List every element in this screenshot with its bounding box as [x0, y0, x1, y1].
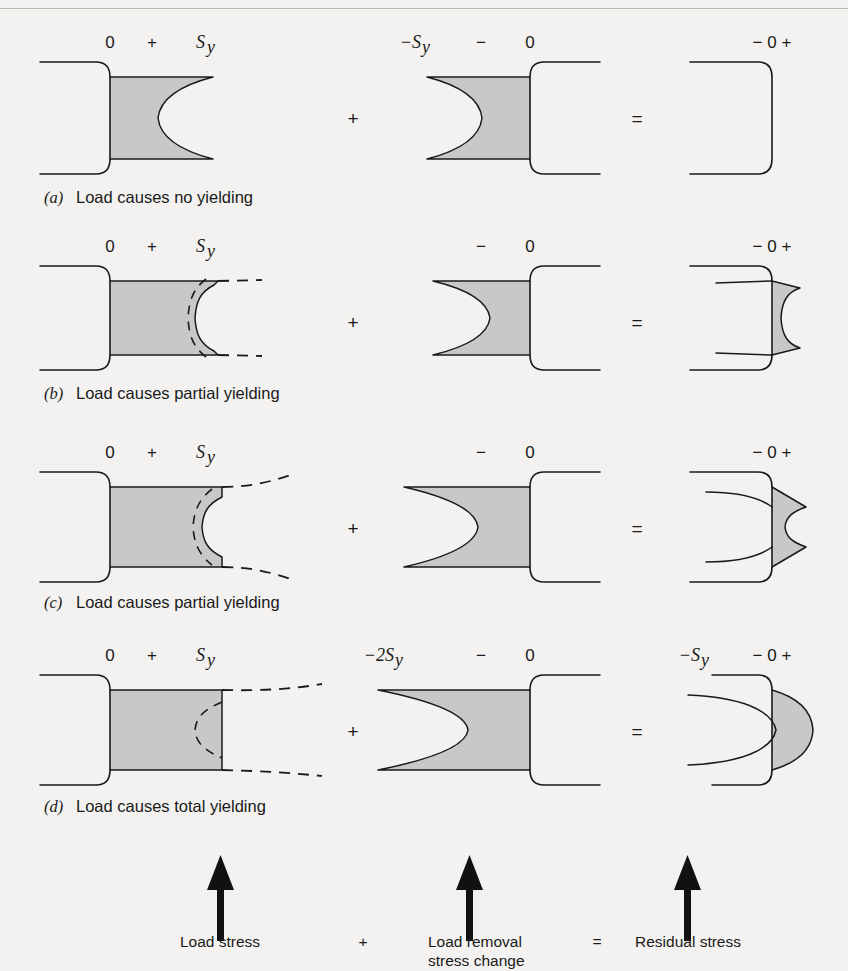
row-c-load-stress: 0 + S y — [40, 442, 296, 582]
figure-canvas: 0 + S y + −S y − 0 = − 0 + (a) Load caus… — [0, 0, 848, 971]
operator-plus-b: + — [347, 312, 358, 333]
legend-load-removal-line2: stress change — [428, 952, 525, 969]
stress-fill — [110, 690, 222, 770]
operator-equals-a: = — [631, 108, 642, 129]
label-neg-2sy: −2S — [364, 645, 394, 665]
label-sy: S — [196, 32, 205, 52]
legend-plus: + — [358, 933, 367, 950]
label-sy: S — [196, 442, 205, 462]
section-profile — [530, 472, 600, 582]
label-minus-zero-plus: − 0 + — [753, 237, 792, 256]
section-profile — [530, 266, 600, 370]
operator-equals-c: = — [631, 518, 642, 539]
residual-neg-top — [706, 492, 772, 507]
label-sy: S — [196, 236, 205, 256]
label-minus-zero-plus: − 0 + — [753, 33, 792, 52]
label-zero: 0 — [105, 237, 114, 256]
label-minus: − — [476, 443, 486, 462]
row-d: 0 + S y + −2S y − 0 = −S y − 0 + (d) — [40, 645, 813, 816]
residual-fill — [772, 690, 813, 770]
operator-equals-b: = — [631, 312, 642, 333]
caption-marker-b: (b) — [44, 384, 63, 403]
arrow-residual-stress-icon — [674, 855, 701, 941]
label-plus: + — [147, 237, 157, 256]
stress-fill — [404, 487, 530, 567]
row-a-load-stress: 0 + S y — [40, 32, 215, 174]
stress-fill — [433, 281, 530, 355]
label-zero: 0 — [105, 646, 114, 665]
section-profile — [530, 675, 600, 785]
legend-equals: = — [592, 933, 601, 950]
row-d-load-stress: 0 + S y — [40, 645, 322, 785]
residual-fill — [772, 281, 800, 355]
section-profile — [690, 62, 772, 174]
label-plus: + — [147, 646, 157, 665]
stress-fill — [110, 487, 222, 567]
label-zero: 0 — [105, 33, 114, 52]
section-profile — [40, 472, 110, 582]
label-minus-zero-plus: − 0 + — [753, 443, 792, 462]
caption-marker-c: (c) — [44, 593, 62, 612]
caption-text-a: Load causes no yielding — [76, 188, 253, 206]
row-a-residual-stress: − 0 + — [690, 33, 791, 174]
label-minus: − — [476, 237, 486, 256]
bottom-legend: Load stress + Load removal stress change… — [180, 855, 741, 969]
label-minus: − — [476, 33, 486, 52]
label-neg-2sy-subscript: y — [393, 650, 403, 670]
operator-plus-a: + — [347, 108, 358, 129]
label-minus: − — [476, 646, 486, 665]
section-profile — [40, 266, 110, 370]
label-zero: 0 — [105, 443, 114, 462]
row-c-load-removal: − 0 — [404, 443, 600, 582]
label-neg-sy-subscript: y — [420, 37, 430, 57]
residual-neg-bottom — [706, 547, 772, 562]
label-zero: 0 — [525, 237, 534, 256]
residual-neg-bottom — [716, 353, 772, 355]
label-neg-sy: −S — [679, 645, 700, 665]
caption-text-c: Load causes partial yielding — [76, 593, 280, 611]
operator-equals-d: = — [631, 721, 642, 742]
row-d-load-removal: −2S y − 0 — [364, 645, 600, 785]
residual-curve-neg — [688, 695, 776, 765]
label-sy-subscript: y — [205, 241, 215, 261]
stress-fill — [110, 281, 218, 355]
row-b-load-removal: − 0 — [433, 237, 600, 370]
legend-residual-stress: Residual stress — [635, 933, 741, 950]
elastic-extension-top — [222, 684, 322, 690]
stress-fill — [110, 77, 213, 159]
operator-plus-c: + — [347, 518, 358, 539]
label-plus: + — [147, 443, 157, 462]
label-sy: S — [196, 645, 205, 665]
label-zero: 0 — [525, 646, 534, 665]
row-b-residual-stress: − 0 + — [690, 237, 800, 370]
caption-marker-d: (d) — [44, 797, 63, 816]
section-profile — [530, 62, 600, 174]
row-a-load-removal: −S y − 0 — [400, 32, 600, 174]
residual-fill — [772, 487, 806, 567]
row-c-residual-stress: − 0 + — [690, 443, 806, 582]
stress-fill — [378, 690, 530, 770]
operator-plus-d: + — [347, 721, 358, 742]
caption-text-b: Load causes partial yielding — [76, 384, 280, 402]
elastic-extension-top — [222, 473, 296, 487]
section-profile — [690, 472, 772, 582]
row-b-load-stress: 0 + S y — [40, 236, 262, 370]
label-sy-subscript: y — [205, 650, 215, 670]
row-b: 0 + S y + − 0 = − 0 + (b) Load causes pa… — [40, 236, 800, 403]
caption-text-d: Load causes total yielding — [76, 797, 266, 815]
row-d-residual-stress: −S y − 0 + — [679, 645, 813, 785]
elastic-extension-bottom — [218, 355, 262, 356]
arrow-load-stress-icon — [207, 855, 234, 941]
row-a: 0 + S y + −S y − 0 = − 0 + (a) Load caus… — [40, 32, 791, 207]
elastic-extension-bottom — [222, 770, 322, 776]
label-neg-sy-subscript: y — [699, 650, 709, 670]
stress-fill — [427, 77, 530, 159]
legend-load-stress: Load stress — [180, 933, 260, 950]
label-zero: 0 — [525, 443, 534, 462]
section-profile — [40, 62, 110, 174]
elastic-extension-top — [218, 280, 262, 281]
legend-load-removal-line1: Load removal — [428, 933, 522, 950]
section-profile — [40, 675, 110, 785]
row-c: 0 + S y + − 0 = − 0 + (c) Load causes pa… — [40, 442, 806, 612]
arrow-load-removal-icon — [456, 855, 483, 941]
